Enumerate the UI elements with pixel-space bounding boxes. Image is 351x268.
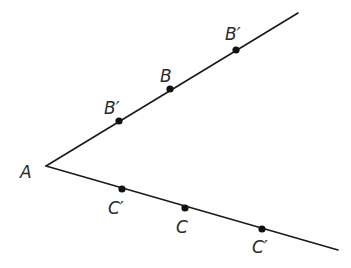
point-c-prime-far bbox=[258, 225, 265, 232]
point-b bbox=[166, 85, 173, 92]
label-b: B bbox=[160, 66, 172, 86]
points-group bbox=[115, 46, 265, 232]
label-b-prime-near: B′ bbox=[104, 98, 120, 118]
label-c-prime-far: C′ bbox=[252, 237, 268, 257]
label-c: C bbox=[176, 217, 188, 237]
point-b-prime-near bbox=[115, 117, 122, 124]
labels-group: A B′ B B′ C′ C C′ bbox=[19, 24, 268, 257]
vertex-label-a: A bbox=[19, 162, 32, 182]
label-c-prime-near: C′ bbox=[108, 198, 124, 218]
rays-group bbox=[46, 13, 338, 250]
lower-ray bbox=[46, 166, 338, 250]
point-c-prime-near bbox=[118, 185, 125, 192]
label-b-prime-far: B′ bbox=[225, 24, 241, 44]
point-c bbox=[181, 204, 188, 211]
point-b-prime-far bbox=[232, 46, 239, 53]
angle-diagram: A B′ B B′ C′ C C′ bbox=[0, 0, 351, 268]
